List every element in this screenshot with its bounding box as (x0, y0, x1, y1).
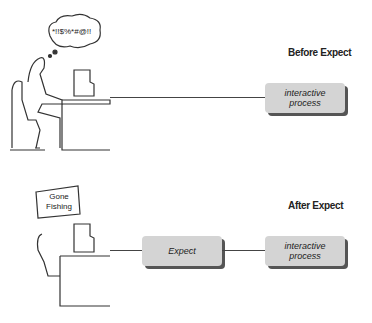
expect-box: Expect (142, 236, 222, 266)
after-expect-title: After Expect (288, 200, 343, 211)
after-interactive-process-box: interactive process (265, 236, 345, 266)
before-connection-line (110, 97, 265, 98)
empty-desk-icon (38, 224, 111, 306)
before-expect-title: Before Expect (288, 47, 351, 58)
before-interactive-process-box: interactive process (265, 83, 345, 113)
after-connection-line-2 (222, 250, 265, 251)
sign-text: Gone Fishing (44, 192, 74, 212)
computer-desk-icon (62, 70, 110, 150)
after-connection-line-1 (110, 250, 142, 251)
frustrated-user-icon (10, 50, 62, 150)
thought-bubble-text: *!!$%*#@!! (52, 27, 91, 36)
